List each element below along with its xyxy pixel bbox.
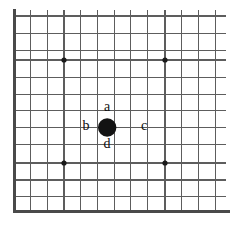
- go-board-figure: a b c d: [0, 0, 245, 228]
- star-point-top-right: [162, 57, 167, 62]
- go-board-grid: [0, 0, 245, 228]
- figure-background: [0, 0, 245, 228]
- star-point-bottom-left: [61, 160, 66, 165]
- star-point-bottom-right: [162, 160, 167, 165]
- black-stone[interactable]: [98, 118, 116, 136]
- star-point-top-left: [61, 57, 66, 62]
